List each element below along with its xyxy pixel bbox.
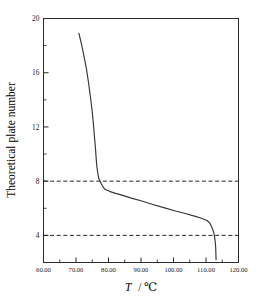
y-tick-label: 4 xyxy=(36,231,40,240)
x-axis-title: T / ℃ xyxy=(125,281,157,293)
x-axis-tick-labels: 60.0070.0080.0090.00100.00110.00120.00 xyxy=(36,266,248,273)
y-tick-label: 16 xyxy=(32,68,40,77)
y-tick-label: 20 xyxy=(32,14,40,23)
x-tick-label: 110.00 xyxy=(197,266,216,273)
reference-lines-group xyxy=(44,181,239,235)
x-tick-label: 120.00 xyxy=(229,266,248,273)
y-axis-tick-labels: 48121620 xyxy=(32,14,40,240)
chart-canvas: 48121620 60.0070.0080.0090.00100.00110.0… xyxy=(0,0,260,299)
y-tick-label: 12 xyxy=(32,123,40,132)
x-axis-title-symbol: T xyxy=(125,281,133,293)
y-axis-title: Theoretical plate number xyxy=(5,82,18,198)
plot-area-frame xyxy=(44,19,239,263)
x-tick-label: 80.00 xyxy=(101,266,117,273)
y-axis-major-ticks xyxy=(44,19,49,236)
x-axis-major-ticks xyxy=(44,258,239,263)
x-tick-label: 60.00 xyxy=(36,266,52,273)
x-tick-label: 100.00 xyxy=(164,266,183,273)
data-series-group xyxy=(79,33,216,259)
chart-figure: 48121620 60.0070.0080.0090.00100.00110.0… xyxy=(0,0,260,299)
x-axis-title-unit: / ℃ xyxy=(138,281,157,293)
data-curve-temperature-profile xyxy=(79,33,216,259)
x-tick-label: 70.00 xyxy=(69,266,85,273)
y-tick-label: 8 xyxy=(36,177,40,186)
x-tick-label: 90.00 xyxy=(134,266,150,273)
